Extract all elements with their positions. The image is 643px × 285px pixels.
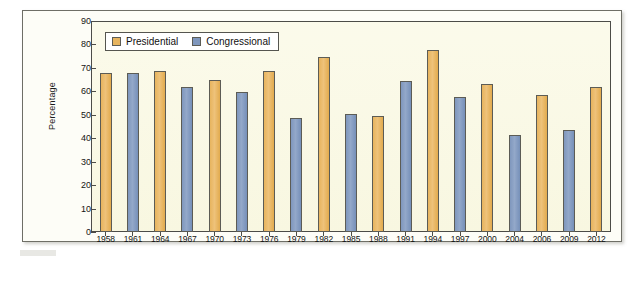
chart-legend: PresidentialCongressional (105, 32, 279, 51)
x-axis-label-2000: 2000 (474, 234, 501, 244)
bar-2012-presidential[interactable] (590, 87, 602, 232)
x-axis-label-1994: 1994 (419, 234, 446, 244)
x-axis-label-1958: 1958 (92, 234, 119, 244)
bar-2004-congressional[interactable] (509, 135, 521, 232)
y-axis-tick-label: 30 (55, 157, 91, 167)
bar-1961-congressional[interactable] (127, 73, 139, 232)
x-axis-label-1982: 1982 (310, 234, 337, 244)
x-axis-label-1976: 1976 (256, 234, 283, 244)
bar-slot (256, 21, 283, 232)
bar-slot (92, 21, 119, 232)
bar-slot (174, 21, 201, 232)
bar-slot (365, 21, 392, 232)
x-axis-label-1967: 1967 (174, 234, 201, 244)
y-axis-tick-label: 60 (55, 86, 91, 96)
x-axis-label-1979: 1979 (283, 234, 310, 244)
bar-1985-congressional[interactable] (345, 114, 357, 232)
x-axis-label-1964: 1964 (147, 234, 174, 244)
x-axis-label-1970: 1970 (201, 234, 228, 244)
x-axis-labels: 1958196119641967197019731976197919821985… (92, 234, 610, 244)
bar-slot (419, 21, 446, 232)
x-axis-label-2012: 2012 (583, 234, 610, 244)
bar-slot (528, 21, 555, 232)
figure-frame: Percentage 9080706050403020100 195819611… (22, 10, 622, 242)
bar-group (92, 21, 610, 232)
x-axis-label-1991: 1991 (392, 234, 419, 244)
y-axis-tick-label: 0 (55, 227, 91, 237)
legend-label: Presidential (126, 36, 178, 47)
legend-swatch-congressional-icon (192, 37, 201, 46)
bar-slot (474, 21, 501, 232)
bar-1964-presidential[interactable] (154, 71, 166, 232)
bar-2006-presidential[interactable] (536, 95, 548, 232)
y-axis-tick-label: 90 (55, 16, 91, 26)
bar-1997-congressional[interactable] (454, 97, 466, 232)
bar-2000-presidential[interactable] (481, 84, 493, 232)
legend-item-presidential[interactable]: Presidential (112, 36, 178, 47)
bar-slot (583, 21, 610, 232)
bar-1958-presidential[interactable] (100, 73, 112, 232)
bar-slot (392, 21, 419, 232)
x-axis-label-1988: 1988 (365, 234, 392, 244)
legend-label: Congressional (206, 36, 270, 47)
x-axis-label-1985: 1985 (337, 234, 364, 244)
bar-slot (337, 21, 364, 232)
bar-1973-congressional[interactable] (236, 92, 248, 232)
bar-slot (310, 21, 337, 232)
y-axis-tick-label: 20 (55, 180, 91, 190)
bar-1991-congressional[interactable] (400, 81, 412, 232)
bar-slot (201, 21, 228, 232)
bar-slot (147, 21, 174, 232)
x-axis-label-1961: 1961 (119, 234, 146, 244)
bar-slot (228, 21, 255, 232)
y-axis-tick-label: 40 (55, 133, 91, 143)
bar-1988-presidential[interactable] (372, 116, 384, 232)
x-axis-label-1997: 1997 (446, 234, 473, 244)
bar-chart: Percentage 9080706050403020100 195819611… (55, 17, 615, 236)
bar-1994-presidential[interactable] (427, 50, 439, 232)
bar-1979-congressional[interactable] (290, 118, 302, 232)
y-axis-tick-label: 50 (55, 110, 91, 120)
legend-swatch-presidential-icon (112, 37, 121, 46)
x-axis-label-2009: 2009 (556, 234, 583, 244)
y-axis-tick-label: 80 (55, 39, 91, 49)
bar-1976-presidential[interactable] (263, 71, 275, 232)
x-axis-label-2006: 2006 (528, 234, 555, 244)
y-axis-tick-label: 10 (55, 204, 91, 214)
bar-slot (446, 21, 473, 232)
y-axis-tick-label: 70 (55, 63, 91, 73)
x-axis-label-2004: 2004 (501, 234, 528, 244)
scan-artifact (20, 250, 56, 256)
bar-slot (501, 21, 528, 232)
bar-1982-presidential[interactable] (318, 57, 330, 232)
bar-slot (283, 21, 310, 232)
bar-slot (119, 21, 146, 232)
bar-1970-presidential[interactable] (209, 80, 221, 232)
legend-item-congressional[interactable]: Congressional (192, 36, 270, 47)
x-axis-label-1973: 1973 (228, 234, 255, 244)
bar-slot (556, 21, 583, 232)
bar-1967-congressional[interactable] (181, 87, 193, 232)
bar-2009-congressional[interactable] (563, 130, 575, 232)
